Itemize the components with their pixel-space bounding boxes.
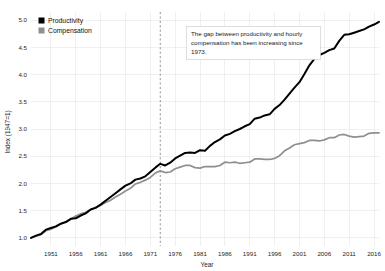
legend-swatch-compensation <box>39 28 45 34</box>
y-tick-label: 3.5 <box>18 98 27 105</box>
x-tick-label: 1986 <box>218 250 232 257</box>
x-tick-label: 2001 <box>293 250 307 257</box>
y-axis-tick-labels: 1.01.52.02.53.03.54.04.55.0 <box>18 16 27 241</box>
x-axis-title: Year <box>201 261 215 268</box>
annotation-line-1: The gap between productivity and hourly <box>191 30 303 37</box>
series-line-compensation <box>31 133 379 238</box>
y-tick-label: 2.5 <box>18 152 27 159</box>
annotation-line-2: compensation has been increasing since <box>191 39 303 46</box>
x-tick-label: 1991 <box>243 250 257 257</box>
y-tick-label: 1.0 <box>18 234 27 241</box>
y-tick-label: 4.0 <box>18 71 27 78</box>
gap-annotation: The gap between productivity and hourly … <box>187 27 321 60</box>
x-tick-label: 1996 <box>268 250 282 257</box>
x-tick-label: 1971 <box>143 250 157 257</box>
x-tick-label: 2011 <box>343 250 357 257</box>
productivity-compensation-chart: 1.01.52.02.53.03.54.04.55.0 195119561961… <box>0 0 385 271</box>
legend-label-productivity: Productivity <box>48 17 84 25</box>
annotation-line-3: 1973. <box>191 48 207 55</box>
y-tick-label: 5.0 <box>18 16 27 23</box>
legend-label-compensation: Compensation <box>48 27 92 35</box>
x-tick-label: 1956 <box>69 250 83 257</box>
y-axis-title: Index (1947=1) <box>4 110 12 153</box>
x-tick-label: 1951 <box>44 250 58 257</box>
x-tick-label: 1966 <box>119 250 133 257</box>
x-tick-label: 2006 <box>317 250 331 257</box>
x-axis-tick-labels: 1951195619611966197119761981198619911996… <box>44 250 381 257</box>
x-tick-label: 1961 <box>94 250 108 257</box>
legend-swatch-productivity <box>39 18 45 24</box>
x-tick-label: 2016 <box>367 250 381 257</box>
y-tick-label: 2.0 <box>18 180 27 187</box>
x-tick-label: 1981 <box>193 250 207 257</box>
y-tick-label: 3.0 <box>18 125 27 132</box>
chart-canvas: 1.01.52.02.53.03.54.04.55.0 195119561961… <box>0 0 385 271</box>
y-tick-label: 4.5 <box>18 44 27 51</box>
x-tick-label: 1976 <box>168 250 182 257</box>
y-tick-label: 1.5 <box>18 207 27 214</box>
